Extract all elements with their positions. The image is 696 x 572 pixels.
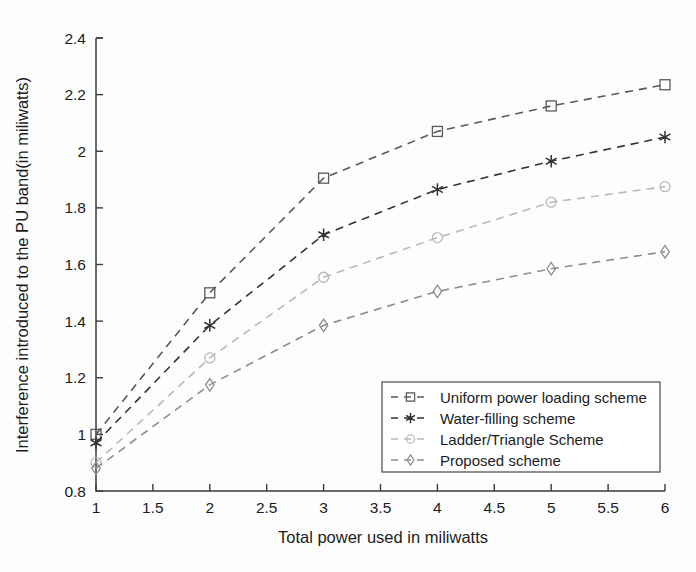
x-axis-title: Total power used in miliwatts [278,528,488,546]
legend[interactable]: Uniform power loading schemeWater-fillin… [382,382,660,472]
diamond-marker [433,285,442,298]
x-tick-label: 1 [92,499,101,516]
asterisk-marker [432,183,443,196]
x-tick-label: 1.5 [142,499,164,516]
x-tick-label: 5.5 [597,499,619,516]
x-tick-label: 6 [661,499,670,516]
x-tick-label: 4 [433,499,442,516]
legend-label: Uniform power loading scheme [440,389,647,406]
y-axis-title: Interference introduced to the PU band(i… [13,77,31,453]
x-tick-label: 3.5 [370,499,392,516]
line-chart: 11.522.533.544.555.56 0.811.21.41.61.822… [0,0,696,572]
legend-label: Ladder/Triangle Scheme [440,431,604,448]
x-tick-label: 2.5 [256,499,278,516]
figure-canvas: 11.522.533.544.555.56 0.811.21.41.61.822… [0,0,696,572]
legend-label: Water-filling scheme [440,410,575,427]
square-marker [660,80,670,90]
y-tick-label: 1 [77,426,86,443]
x-tick-label: 3 [319,499,328,516]
y-tick-label: 1.4 [64,313,86,330]
x-tick-label: 4.5 [484,499,506,516]
y-tick-label: 0.8 [64,483,86,500]
y-tick-label: 2.2 [64,86,86,103]
y-tick-label: 1.8 [64,199,86,216]
circle-marker [432,233,442,243]
legend-label: Proposed scheme [440,452,561,469]
y-tick-label: 2.4 [64,30,86,47]
x-tick-labels: 11.522.533.544.555.56 [92,499,670,516]
y-tick-label: 1.2 [64,369,86,386]
x-tick-label: 2 [205,499,214,516]
x-tick-label: 5 [547,499,556,516]
asterisk-marker [318,229,329,242]
y-tick-label: 1.6 [64,256,86,273]
y-tick-labels: 0.811.21.41.61.822.22.4 [64,30,86,500]
y-tick-label: 2 [77,143,86,160]
